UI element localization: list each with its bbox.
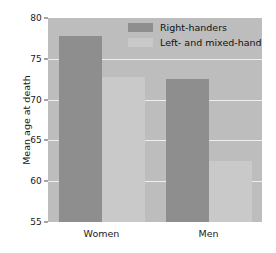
legend: Right-handersLeft- and mixed-handers	[128, 22, 262, 48]
y-axis-tick-label: 70	[30, 95, 42, 105]
x-axis-tick-label: Women	[84, 228, 120, 239]
bar	[102, 77, 145, 222]
bar	[59, 36, 102, 222]
bar	[209, 161, 252, 222]
bar-chart: Mean age at death 556065707580 Right-han…	[0, 0, 276, 253]
x-axis-tick-label: Men	[198, 228, 218, 239]
y-axis-tick-label: 65	[30, 135, 42, 145]
y-axis: 556065707580	[0, 0, 48, 253]
legend-item[interactable]: Left- and mixed-handers	[128, 37, 262, 48]
bar	[166, 79, 209, 222]
y-axis-tick-label: 60	[30, 176, 42, 186]
legend-item[interactable]: Right-handers	[128, 22, 262, 33]
y-axis-tick-label: 75	[30, 54, 42, 64]
legend-item-label: Left- and mixed-handers	[160, 37, 262, 48]
plot-area: Right-handersLeft- and mixed-handers	[48, 18, 262, 222]
y-axis-tick-label: 80	[30, 13, 42, 23]
y-axis-tick-label: 55	[30, 217, 42, 227]
legend-swatch-icon	[128, 23, 153, 32]
legend-item-label: Right-handers	[160, 22, 227, 33]
legend-swatch-icon	[128, 38, 153, 47]
